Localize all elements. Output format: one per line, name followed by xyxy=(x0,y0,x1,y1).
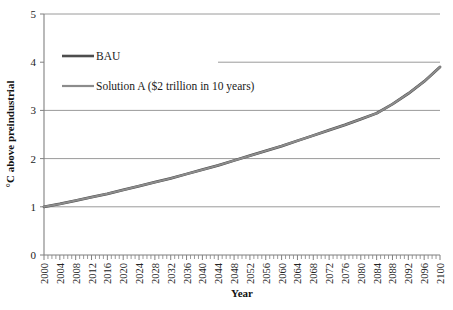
x-tick-label: 2084 xyxy=(372,262,383,284)
climate-projection-line-chart: 5 4 3 2 1 0 °C above preindustrial 20002… xyxy=(0,0,453,310)
x-tick-label: 2056 xyxy=(261,263,272,284)
x-tick-label: 2012 xyxy=(87,263,98,284)
x-tick-label: 2044 xyxy=(213,262,224,284)
x-tick-label: 2100 xyxy=(435,263,446,284)
x-tick-label: 2052 xyxy=(245,263,256,284)
x-tick-label: 2004 xyxy=(55,262,66,284)
y-tick-label-4: 4 xyxy=(31,56,37,68)
x-tick-label: 2072 xyxy=(324,263,335,284)
x-tick-label: 2016 xyxy=(102,263,113,284)
x-tick-label: 2068 xyxy=(308,263,319,284)
x-tick-label: 2096 xyxy=(419,263,430,284)
x-tick-label: 2060 xyxy=(277,263,288,284)
y-tick-label-2: 2 xyxy=(31,153,37,165)
x-tick-label: 2036 xyxy=(182,263,193,284)
x-tick-label: 2024 xyxy=(134,262,145,284)
x-tick-label: 2028 xyxy=(150,263,161,284)
x-tick-label: 2080 xyxy=(356,263,367,284)
y-tick-label-0: 0 xyxy=(31,249,37,261)
y-tick-label-1: 1 xyxy=(31,201,37,213)
chart-container: 5 4 3 2 1 0 °C above preindustrial 20002… xyxy=(0,0,453,310)
legend-label-solution-a: Solution A ($2 trillion in 10 years) xyxy=(96,80,255,93)
x-axis-title: Year xyxy=(231,287,253,299)
y-axis-ticks xyxy=(40,14,44,255)
y-tick-label-3: 3 xyxy=(31,104,37,116)
x-tick-label: 2032 xyxy=(166,263,177,284)
x-tick-label: 2064 xyxy=(292,262,303,284)
x-tick-label: 2040 xyxy=(197,263,208,284)
y-axis-title: °C above preindustrial xyxy=(4,81,16,188)
x-axis-ticks-and-labels: 2000200420082012201620202024202820322036… xyxy=(39,255,446,284)
x-tick-label: 2000 xyxy=(39,263,50,284)
y-tick-label-5: 5 xyxy=(31,8,37,20)
x-tick-label: 2020 xyxy=(118,263,129,284)
x-tick-label: 2048 xyxy=(229,263,240,284)
x-tick-label: 2008 xyxy=(71,263,82,284)
x-tick-label: 2092 xyxy=(403,263,414,284)
x-tick-label: 2088 xyxy=(387,263,398,284)
x-tick-label: 2076 xyxy=(340,263,351,284)
legend-label-bau: BAU xyxy=(96,50,121,62)
